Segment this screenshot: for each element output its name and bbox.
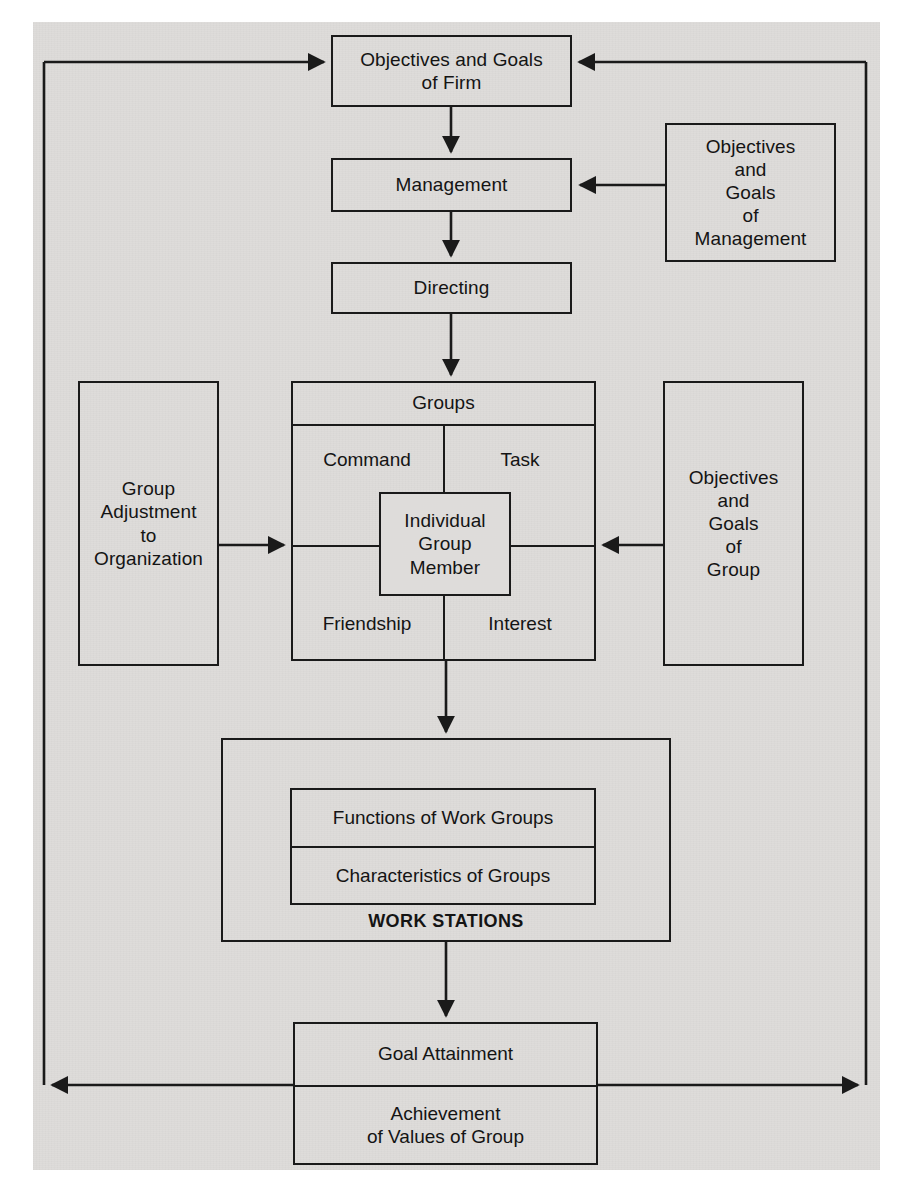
label-achievement-of-values-of-group: Achievement of Values of Group bbox=[293, 1087, 598, 1163]
label-work-stations: WORK STATIONS bbox=[221, 905, 671, 939]
node-management: Management bbox=[331, 158, 572, 212]
node-individual-group-member: Individual Group Member bbox=[379, 492, 511, 596]
label-quadrant-command: Command bbox=[294, 438, 440, 482]
node-objectives-and-goals-of-firm: Objectives and Goals of Firm bbox=[331, 35, 572, 107]
label-quadrant-interest: Interest bbox=[446, 602, 594, 646]
label-quadrant-friendship: Friendship bbox=[294, 602, 440, 646]
label-goal-attainment: Goal Attainment bbox=[293, 1023, 598, 1085]
label-characteristics-of-groups: Characteristics of Groups bbox=[290, 848, 596, 904]
label-groups: Groups bbox=[291, 382, 596, 424]
node-directing: Directing bbox=[331, 262, 572, 314]
node-objectives-and-goals-of-management: Objectives and Goals of Management bbox=[665, 123, 836, 262]
label-functions-of-work-groups: Functions of Work Groups bbox=[290, 789, 596, 846]
node-group-adjustment-to-organization: Group Adjustment to Organization bbox=[78, 381, 219, 666]
node-objectives-and-goals-of-group: Objectives and Goals of Group bbox=[663, 381, 804, 666]
diagram-page: Objectives and Goals of Firm Management … bbox=[0, 0, 904, 1196]
label-quadrant-task: Task bbox=[446, 438, 594, 482]
